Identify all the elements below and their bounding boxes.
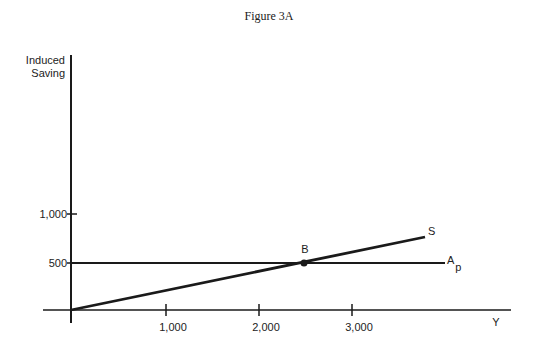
point-b-marker	[301, 260, 308, 267]
series-s-label: S	[428, 225, 435, 237]
y-tick-label-1000: 1,000	[39, 208, 67, 220]
y-tick-label-500: 500	[49, 257, 67, 269]
point-b-label: B	[301, 243, 308, 255]
chart-canvas: Induced Saving 1,000 500 1,000 2,000 3,0…	[0, 0, 538, 357]
y-axis-label-line2: Saving	[31, 67, 65, 79]
x-axis-label: Y	[492, 316, 500, 328]
x-tick-label-2000: 2,000	[252, 321, 280, 333]
series-ap-label-main: A	[447, 254, 455, 266]
x-tick-label-3000: 3,000	[345, 321, 373, 333]
series-ap-label: Ap	[447, 254, 461, 273]
x-tick-label-1000: 1,000	[159, 321, 187, 333]
series-ap-label-subscript: p	[455, 261, 461, 273]
y-axis-label-line1: Induced	[26, 54, 65, 66]
series-s-line	[71, 237, 425, 310]
